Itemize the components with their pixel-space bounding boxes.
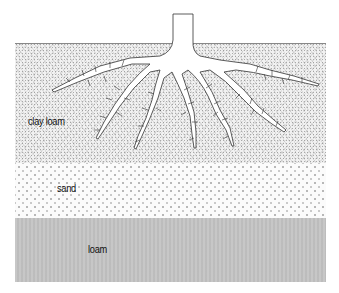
layer-label-clay-loam: clay loam xyxy=(28,115,65,127)
root-system-illustration xyxy=(0,0,339,293)
layer-label-loam: loam xyxy=(88,243,107,255)
layer-label-sand: sand xyxy=(57,182,76,194)
